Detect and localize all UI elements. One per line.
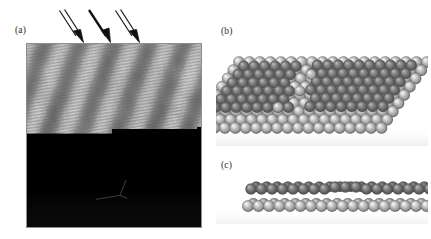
panel-label-a: (a) bbox=[15, 25, 26, 35]
panel-b bbox=[216, 42, 428, 146]
arrow-outline-right bbox=[113, 9, 147, 45]
panel-c bbox=[216, 172, 428, 224]
panel-label-b: (b) bbox=[221, 26, 233, 36]
ball-model-side-view-canvas bbox=[216, 172, 428, 224]
stm-topograph-canvas bbox=[27, 44, 201, 227]
figure-root: (a) (b) (c) bbox=[0, 0, 431, 239]
panel-label-c: (c) bbox=[221, 160, 232, 170]
stm-topograph-frame bbox=[26, 43, 202, 228]
ball-model-top-view-canvas bbox=[216, 42, 428, 146]
panel-a bbox=[26, 43, 202, 228]
